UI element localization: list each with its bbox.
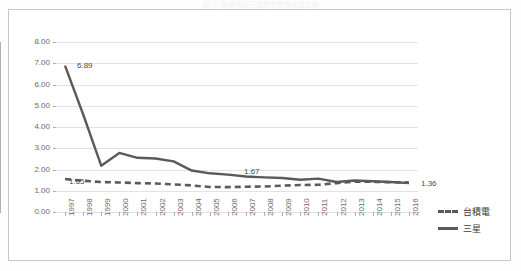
x-tick-mark xyxy=(318,212,319,216)
x-tick-mark xyxy=(264,212,265,216)
chart-title-faint: 圖 三 台積電與三星歷年營收成長比較 xyxy=(130,0,392,9)
x-tick-mark xyxy=(282,212,283,216)
chart-legend: 台積電 三星 xyxy=(438,203,508,237)
x-tick-mark xyxy=(192,212,193,216)
y-tick-label: 0.00 xyxy=(16,208,50,216)
y-tick-label: 5.00 xyxy=(16,102,50,110)
series-lines xyxy=(56,42,418,212)
x-tick-mark xyxy=(156,212,157,216)
x-tick-mark xyxy=(337,212,338,216)
y-tick-label: 4.00 xyxy=(16,123,50,131)
x-tick-mark xyxy=(65,212,66,216)
x-tick-mark xyxy=(101,212,102,216)
data-label: 1.67 xyxy=(244,168,260,176)
y-tick-label: 2.00 xyxy=(16,166,50,174)
legend-swatch-dashed-icon xyxy=(438,210,458,213)
y-tick-label: 1.00 xyxy=(16,187,50,195)
legend-item-samsung: 三星 xyxy=(438,220,508,237)
legend-swatch-solid-icon xyxy=(438,227,458,230)
y-axis-line xyxy=(0,42,1,213)
x-tick-mark xyxy=(373,212,374,216)
data-label: 1.65 xyxy=(69,178,85,186)
y-tick-label: 6.00 xyxy=(16,81,50,89)
x-tick-mark xyxy=(246,212,247,216)
data-label: 6.89 xyxy=(77,62,93,70)
x-tick-mark xyxy=(83,212,84,216)
chart-page: 圖 三 台積電與三星歷年營收成長比較 0.001.002.003.004.005… xyxy=(0,0,521,271)
x-tick-mark xyxy=(210,212,211,216)
y-tick-label: 3.00 xyxy=(16,144,50,152)
x-tick-mark xyxy=(409,212,410,216)
x-tick-mark xyxy=(228,212,229,216)
x-tick-mark xyxy=(391,212,392,216)
legend-label-samsung: 三星 xyxy=(463,224,481,234)
y-tick-label: 8.00 xyxy=(16,38,50,46)
legend-label-tsmc: 台積電 xyxy=(463,207,490,217)
x-tick-mark xyxy=(119,212,120,216)
x-tick-mark xyxy=(355,212,356,216)
data-label: 1.36 xyxy=(421,180,437,188)
series-line-samsung xyxy=(65,66,409,184)
x-tick-mark xyxy=(300,212,301,216)
legend-item-tsmc: 台積電 xyxy=(438,203,508,220)
y-tick-mark xyxy=(53,212,56,213)
y-tick-label: 7.00 xyxy=(16,59,50,67)
x-tick-mark xyxy=(137,212,138,216)
x-tick-mark xyxy=(174,212,175,216)
